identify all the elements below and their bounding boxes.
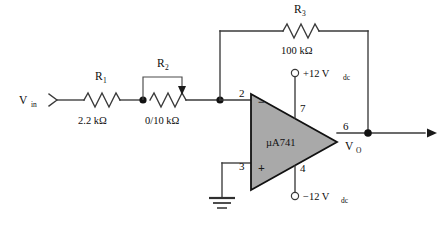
circuit-schematic-canvas: V in R 1 2.2 kΩ R 2 0/10 kΩ R 3 100 kΩ µ… — [0, 0, 446, 232]
negative-supply-label: −12 V dc — [303, 191, 349, 205]
r2-label-group: R 2 0/10 kΩ — [145, 57, 180, 126]
inverting-input-sign: − — [258, 95, 265, 109]
r1-reference-sub: 1 — [103, 76, 107, 85]
vo-label-sub: O — [356, 146, 362, 155]
pin-label-6: 6 — [343, 120, 349, 132]
negative-supply-sub: dc — [341, 196, 349, 205]
negative-supply-main: −12 V — [303, 191, 330, 202]
earth-ground-symbol — [209, 198, 235, 208]
circuit-diagram: V in R 1 2.2 kΩ R 2 0/10 kΩ R 3 100 kΩ µ… — [0, 0, 446, 232]
pin-label-2: 2 — [239, 87, 245, 99]
opamp-part-number: µA741 — [266, 137, 295, 148]
positive-supply-sub: dc — [343, 73, 351, 82]
input-port-label: V in — [19, 94, 37, 109]
r2-value: 0/10 kΩ — [145, 115, 180, 126]
vin-label-main: V — [19, 94, 28, 106]
ground-branch — [209, 163, 251, 208]
noninverting-input-sign: + — [258, 161, 265, 175]
r3-reference-sub: 3 — [302, 9, 306, 18]
output-port-label: V O — [345, 140, 362, 155]
r3-label-group: R 3 100 kΩ — [281, 3, 313, 56]
r3-reference-main: R — [294, 3, 302, 15]
output-branch — [337, 129, 437, 138]
r1-reference-main: R — [95, 70, 103, 82]
output-arrow-marker — [427, 129, 437, 138]
r1-label-group: R 1 2.2 kΩ — [78, 70, 107, 126]
vo-label-main: V — [345, 140, 354, 152]
r3-value: 100 kΩ — [281, 45, 313, 56]
r1-value: 2.2 kΩ — [78, 115, 107, 126]
open-circle-terminal-negative — [291, 192, 298, 199]
resistor-r3-symbol — [283, 24, 319, 38]
pin-label-4: 4 — [300, 162, 306, 174]
vin-label-sub: in — [31, 100, 37, 109]
open-circle-terminal-positive — [291, 69, 298, 76]
resistor-r1-symbol — [84, 93, 120, 107]
positive-supply-branch — [291, 69, 298, 118]
pin-label-7: 7 — [300, 102, 306, 114]
pin-label-3: 3 — [239, 160, 245, 172]
negative-supply-branch — [291, 166, 298, 200]
positive-supply-main: +12 V — [303, 68, 330, 79]
input-arrow-marker — [49, 94, 57, 106]
positive-supply-label: +12 V dc — [303, 68, 351, 82]
r2-reference-sub: 2 — [165, 63, 169, 72]
potentiometer-r2-symbol — [143, 77, 186, 107]
r2-reference-main: R — [157, 57, 165, 69]
junction-node-output — [364, 129, 372, 137]
